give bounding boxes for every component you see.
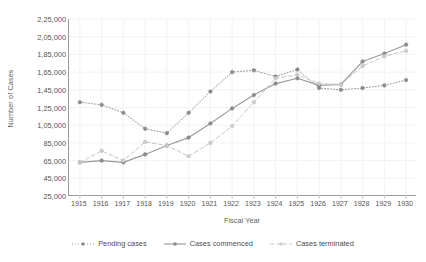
y-tick-label: 65,000 <box>14 156 66 165</box>
x-tick-label: 1927 <box>332 200 348 208</box>
y-tick-label: 1,65,000 <box>14 68 66 77</box>
legend-swatch-icon <box>72 240 94 248</box>
y-tick-label: 2,05,000 <box>14 32 66 41</box>
y-tick-label: 1,25,000 <box>14 103 66 112</box>
legend-label: Pending cases <box>98 239 146 248</box>
x-tick-label: 1922 <box>223 200 239 208</box>
y-tick-label: 45,000 <box>14 174 66 183</box>
y-tick-label: 25,000 <box>14 192 66 201</box>
x-tick-label: 1920 <box>180 200 196 208</box>
x-tick-label: 1926 <box>310 200 326 208</box>
x-tick-label: 1917 <box>114 200 130 208</box>
legend-item-1[interactable]: Cases commenced <box>164 239 253 248</box>
chart-container: Number of Cases 25,00045,00065,00085,000… <box>0 0 426 262</box>
x-tick-label: 1924 <box>267 200 283 208</box>
x-tick-label: 1921 <box>201 200 217 208</box>
x-axis-title: Fiscal Year <box>68 216 416 225</box>
legend-label: Cases commenced <box>190 239 253 248</box>
y-tick-label: 85,000 <box>14 138 66 147</box>
x-tick-label: 1929 <box>375 200 391 208</box>
legend-item-0[interactable]: Pending cases <box>72 239 146 248</box>
y-tick-label: 1,45,000 <box>14 85 66 94</box>
legend-swatch-icon <box>164 240 186 248</box>
y-tick-label: 1,85,000 <box>14 50 66 59</box>
y-tick-label: 2,25,000 <box>14 15 66 24</box>
chart-legend: Pending casesCases commencedCases termin… <box>0 239 426 248</box>
legend-label: Cases terminated <box>296 239 354 248</box>
x-tick-label: 1925 <box>288 200 304 208</box>
x-tick-label: 1928 <box>354 200 370 208</box>
x-tick-label: 1930 <box>397 200 413 208</box>
x-tick-label: 1915 <box>71 200 87 208</box>
legend-item-2[interactable]: Cases terminated <box>270 239 354 248</box>
x-tick-label: 1918 <box>136 200 152 208</box>
y-axis-tick-labels: 25,00045,00065,00085,0001,05,0001,25,000… <box>14 0 66 262</box>
x-tick-label: 1919 <box>158 200 174 208</box>
legend-swatch-icon <box>270 240 292 248</box>
x-tick-label: 1916 <box>93 200 109 208</box>
x-tick-label: 1923 <box>245 200 261 208</box>
y-tick-label: 1,05,000 <box>14 121 66 130</box>
